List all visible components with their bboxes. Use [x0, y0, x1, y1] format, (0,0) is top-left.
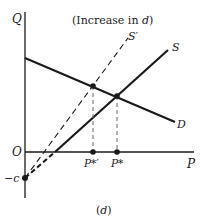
p-axis-label: P	[186, 157, 196, 171]
supply-label: S	[172, 41, 180, 54]
p-star-prime-point	[90, 149, 96, 155]
supply-curve	[55, 50, 168, 152]
p-star-prime-label: P*′	[83, 157, 99, 169]
intersection-new-point	[90, 83, 96, 89]
demand-label: D	[176, 118, 186, 131]
origin-label: O	[12, 145, 22, 159]
intersection-old-point	[114, 93, 120, 99]
diagram-title: (Increase in d)	[72, 14, 153, 27]
intercept-label: −c	[4, 172, 19, 185]
diagram-canvas: (Increase in d) Q P O −c D S S′ P*′ P* (…	[0, 0, 204, 217]
figure-caption: (d)	[96, 204, 112, 217]
q-axis-label: Q	[12, 12, 22, 26]
p-star-point	[114, 149, 120, 155]
supply-curve-dashed-segment	[25, 152, 55, 178]
intercept-point	[22, 175, 28, 181]
supply-shifted-label: S′	[128, 30, 139, 43]
p-star-label: P*	[110, 157, 124, 169]
